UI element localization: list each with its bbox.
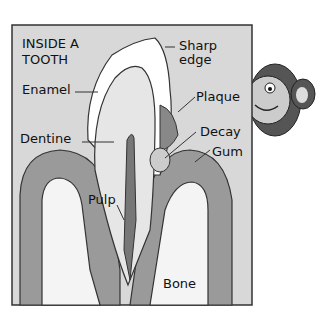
label-sharp-line-1: Sharp bbox=[179, 38, 217, 53]
label-dentine: Dentine bbox=[20, 131, 71, 146]
decay bbox=[150, 148, 170, 172]
label-sharp-line-2: edge bbox=[179, 52, 212, 67]
title-line-2: TOOTH bbox=[21, 52, 68, 67]
label-plaque: Plaque bbox=[196, 89, 240, 104]
label-gum: Gum bbox=[212, 144, 243, 159]
label-enamel: Enamel bbox=[22, 82, 71, 97]
tooth-diagram: INSIDE A TOOTH Enamel Dentine Sharp edge… bbox=[0, 0, 323, 314]
label-decay: Decay bbox=[200, 124, 241, 139]
monkey-icon bbox=[246, 64, 315, 136]
label-pulp: Pulp bbox=[88, 192, 116, 207]
label-bone: Bone bbox=[163, 276, 196, 291]
title-line-1: INSIDE A bbox=[22, 36, 79, 51]
